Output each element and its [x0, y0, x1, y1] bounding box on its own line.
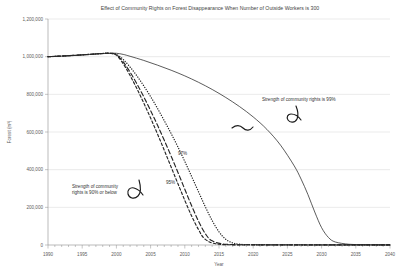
x-tick-label: 2005 — [145, 252, 156, 257]
chart-container: Effect of Community Rights on Forest Dis… — [0, 0, 399, 270]
y-tick-label: 0 — [40, 243, 43, 248]
y-tick-label: 1,200,000 — [23, 17, 44, 22]
annotation-texts: Strength of community rights is 99%Stren… — [72, 97, 336, 195]
y-tick-label: 1,000,000 — [23, 54, 44, 59]
x-tick-label: 1990 — [43, 252, 54, 257]
data-series-group — [48, 53, 390, 245]
series-line-dotted — [48, 53, 390, 245]
annotation-90-line2: rights is 90% or below — [72, 190, 118, 195]
annotation-90-line1: Strength of community — [72, 184, 119, 189]
x-axis-title: Year — [214, 262, 224, 267]
series-line-solid — [48, 53, 390, 245]
leader-line-90 — [128, 180, 143, 198]
leader-squiggle-99 — [232, 126, 253, 130]
x-tick-label: 2025 — [282, 252, 293, 257]
x-tick-label: 2015 — [214, 252, 225, 257]
x-tick-label: 2030 — [316, 252, 327, 257]
series-line-dashed-long — [48, 53, 390, 245]
y-tick-label: 600,000 — [26, 130, 43, 135]
x-tick-label: 2000 — [111, 252, 122, 257]
y-tick-label: 800,000 — [26, 92, 43, 97]
y-tick-label: 400,000 — [26, 167, 43, 172]
x-tick-label: 1995 — [77, 252, 88, 257]
annotation-leader-lines — [128, 106, 301, 198]
series-line-dashed-short — [48, 53, 390, 245]
forest-disappearance-line-chart: Effect of Community Rights on Forest Dis… — [0, 0, 399, 270]
y-axis-tick-labels: 0200,000400,000600,000800,0001,000,0001,… — [23, 17, 44, 248]
x-tick-label: 2010 — [180, 252, 191, 257]
x-tick-label: 2020 — [248, 252, 259, 257]
y-axis-title: Forest (m³) — [7, 120, 12, 143]
y-tick-label: 200,000 — [26, 205, 43, 210]
chart-title: Effect of Community Rights on Forest Dis… — [101, 5, 319, 11]
annotation-99: Strength of community rights is 99% — [262, 97, 336, 102]
leader-line-99 — [287, 106, 301, 122]
x-tick-label: 2035 — [351, 252, 362, 257]
x-tick-label: 2040 — [385, 252, 396, 257]
gridlines — [48, 19, 390, 207]
series-label-95: 95% — [166, 180, 175, 185]
series-label-97: 97% — [178, 151, 187, 156]
x-axis-tick-labels: 1990199520002005201020152020202520302035… — [43, 252, 396, 257]
